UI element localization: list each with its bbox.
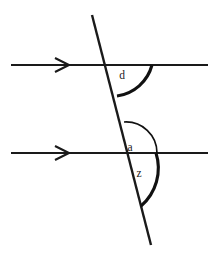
geometry-diagram: d a z — [0, 0, 217, 258]
angle-label-z: z — [136, 167, 141, 179]
diagram-background — [0, 0, 217, 258]
angle-label-a: a — [127, 141, 132, 153]
angle-label-d: d — [119, 69, 125, 81]
geometry-canvas: d a z — [0, 0, 217, 258]
